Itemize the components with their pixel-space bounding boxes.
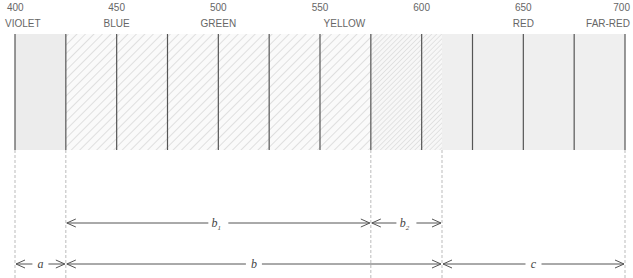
span-label: b2 [400, 216, 410, 232]
span-label: a [37, 257, 43, 271]
tick-label: 400 [7, 2, 24, 13]
band-label-blue: BLUE [104, 18, 130, 29]
span-label: b [251, 257, 257, 271]
band-label-yellow: YELLOW [324, 18, 366, 29]
spectrum-region [442, 34, 625, 150]
span-b1: b1 [67, 216, 370, 232]
tick-label: 450 [108, 2, 125, 13]
span-b2: b2 [372, 216, 441, 232]
band-label-violet: VIOLET [5, 18, 41, 29]
span-b: b [67, 257, 441, 271]
span-a: a [16, 257, 65, 271]
tick-label: 700 [613, 2, 630, 13]
wavelength-tick-labels: 400450500550600650700 [7, 2, 630, 13]
span-arrows: b1b2abc [16, 216, 624, 271]
span-label: c [531, 257, 537, 271]
band-label-far-red: FAR-RED [586, 18, 630, 29]
band-label-red: RED [513, 18, 534, 29]
tick-label: 650 [515, 2, 532, 13]
tick-label: 550 [312, 2, 329, 13]
spectrum-region [15, 34, 66, 150]
span-label: b1 [212, 216, 222, 232]
tick-label: 600 [413, 2, 430, 13]
spectrum-diagram: 400450500550600650700 VIOLETBLUEGREENYEL… [0, 0, 633, 278]
tick-label: 500 [210, 2, 227, 13]
spectrum-region [371, 34, 442, 150]
band-label-green: GREEN [201, 18, 237, 29]
color-band-labels: VIOLETBLUEGREENYELLOWREDFAR-RED [5, 18, 630, 29]
span-c: c [443, 257, 624, 271]
